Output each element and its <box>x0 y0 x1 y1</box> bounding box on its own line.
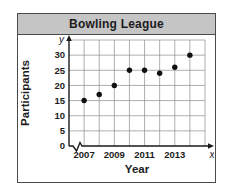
y-axis-title: Participants <box>19 60 31 126</box>
data-point <box>112 83 117 88</box>
data-point <box>142 68 147 73</box>
scatter-plot: 0510152025302007200920112013yxYearPartic… <box>18 35 214 181</box>
y-tick-label: 0 <box>60 140 65 151</box>
data-point <box>187 52 192 57</box>
data-point <box>157 71 162 76</box>
x-axis-arrow <box>208 143 214 149</box>
chart-title-bar: Bowling League <box>18 14 215 35</box>
chart-title: Bowling League <box>69 17 164 31</box>
x-axis-symbol: x <box>209 149 215 160</box>
y-tick-label: 30 <box>54 49 65 60</box>
y-tick-label: 20 <box>54 80 65 91</box>
grid <box>69 40 205 146</box>
y-axis-symbol: y <box>58 35 65 45</box>
y-axis-arrow <box>66 35 72 41</box>
data-point <box>172 65 177 70</box>
y-tick-label: 5 <box>60 125 66 136</box>
x-tick-label: 2013 <box>164 149 185 160</box>
chart-body: 0510152025302007200920112013yxYearPartic… <box>18 35 215 181</box>
y-tick-label: 15 <box>54 95 65 106</box>
chart-card: Bowling League 0510152025302007200920112… <box>17 13 216 183</box>
data-point <box>127 68 132 73</box>
tick-labels: 0510152025302007200920112013 <box>54 49 185 160</box>
data-points <box>81 52 192 103</box>
x-tick-label: 2007 <box>74 149 95 160</box>
y-tick-label: 10 <box>54 110 65 121</box>
y-axis <box>66 35 72 146</box>
data-point <box>81 98 86 103</box>
x-tick-label: 2011 <box>134 149 155 160</box>
x-axis-title: Year <box>125 163 150 175</box>
x-tick-label: 2009 <box>104 149 125 160</box>
y-tick-label: 25 <box>54 65 65 76</box>
data-point <box>97 92 102 97</box>
